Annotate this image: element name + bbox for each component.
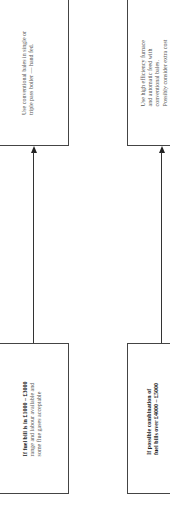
connector-line-left: [33, 152, 34, 343]
condition-text-fuel-bill-4000-5000: If possible combination of fuel bills ov…: [146, 382, 160, 454]
condition-heading: fuel bills over £4000 – £5000: [153, 382, 160, 454]
arrow-up-icon: [159, 146, 165, 153]
condition-box-fuel-bill-4000-5000: If possible combination of fuel bills ov…: [127, 343, 170, 494]
text-line: and automatic feed with: [147, 39, 154, 106]
outcome-box-high-efficiency-furnace: Use high efficiency furnace and automati…: [127, 0, 170, 146]
arrow-up-icon: [31, 146, 37, 153]
outcome-text-high-efficiency-furnace: Use high efficiency furnace and automati…: [140, 39, 169, 106]
text-line: Possibly consider extra cost: [161, 39, 168, 106]
text-line: Use high efficiency furnace: [140, 39, 147, 106]
text-line: some flue gases acceptable: [37, 381, 44, 456]
condition-text-fuel-bill-1000-3000: If fuel bill is in £1000 – £3000 range a…: [22, 381, 44, 456]
text-line: Use conventional bales in single or: [21, 30, 28, 114]
outcome-text-conventional-bales: Use conventional bales in single or trip…: [21, 30, 35, 114]
connector-line-right: [161, 152, 162, 343]
condition-heading: If possible combination of: [146, 382, 153, 454]
text-line: conventional bales.: [154, 39, 161, 106]
text-line: triple pass boiler — hand fed.: [28, 30, 35, 114]
condition-box-fuel-bill-1000-3000: If fuel bill is in £1000 – £3000 range a…: [0, 343, 69, 494]
outcome-box-conventional-bales: Use conventional bales in single or trip…: [0, 0, 69, 146]
condition-heading: If fuel bill is in £1000 – £3000: [22, 381, 29, 456]
text-line: range and labour available and: [29, 381, 36, 456]
